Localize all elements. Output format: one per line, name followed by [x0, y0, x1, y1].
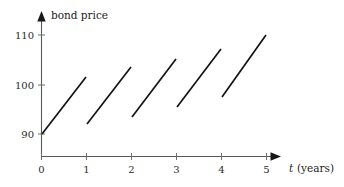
x-tick-label-3: 3 — [173, 164, 179, 175]
y-tick-label-100: 100 — [15, 80, 34, 91]
x-tick-label-0: 0 — [38, 164, 44, 175]
y-axis-arrowhead — [37, 11, 45, 22]
x-axis-title-variable: t — [289, 162, 294, 174]
sawtooth-segment-4 — [177, 49, 221, 107]
x-tick-label-5: 5 — [263, 164, 269, 175]
sawtooth-segment-5 — [222, 35, 266, 97]
sawtooth-segment-3 — [132, 59, 176, 117]
x-tick-label-1: 1 — [83, 164, 89, 175]
x-tick-label-4: 4 — [218, 164, 224, 175]
sawtooth-segment-1 — [42, 77, 86, 134]
y-tick-label-110: 110 — [15, 30, 34, 41]
x-axis-arrowhead — [271, 152, 282, 161]
x-tick-label-2: 2 — [128, 164, 134, 175]
y-tick-labels: 110 100 90 — [15, 30, 34, 140]
chart-canvas: 110 100 90 0 1 2 3 4 5 bond price t (yea… — [0, 0, 344, 187]
bond-price-sawtooth-figure: 110 100 90 0 1 2 3 4 5 bond price t (yea… — [0, 0, 344, 187]
x-axis-title-unit: (years) — [297, 162, 334, 174]
x-tick-labels: 0 1 2 3 4 5 — [38, 164, 269, 175]
sawtooth-series — [42, 35, 266, 134]
x-axis-group — [42, 152, 282, 161]
sawtooth-segment-2 — [87, 67, 131, 124]
y-tick-label-90: 90 — [21, 129, 34, 140]
y-axis-title: bond price — [51, 9, 108, 21]
